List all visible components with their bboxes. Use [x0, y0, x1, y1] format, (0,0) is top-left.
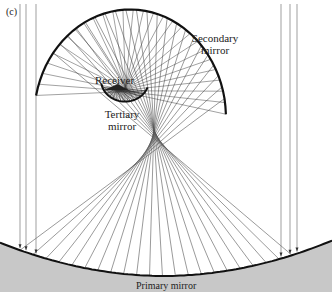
- tertiary-label-line1: Tertiary: [100, 108, 144, 120]
- mirror-surfaces: [0, 10, 332, 277]
- receiver-label: Receiver: [95, 74, 134, 86]
- tertiary-label-line2: mirror: [100, 120, 144, 132]
- optics-svg: [0, 0, 332, 298]
- telescope-optics-diagram: (c) Receiver Tertiary mirror Secondary m…: [0, 0, 332, 298]
- secondary-label-line1: Secondary: [188, 32, 242, 44]
- secondary-label-line2: mirror: [188, 44, 242, 56]
- panel-label: (c): [6, 6, 17, 18]
- secondary-mirror-label: Secondary mirror: [188, 32, 242, 56]
- converging-rays: [20, 10, 292, 276]
- tertiary-mirror-label: Tertiary mirror: [100, 108, 144, 132]
- primary-mirror-label: Primary mirror: [136, 280, 196, 292]
